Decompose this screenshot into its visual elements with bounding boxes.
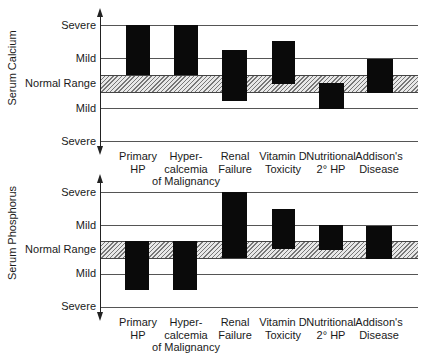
level-label-mild-low: Mild [0,267,96,279]
bar-primary-hp [126,25,150,75]
bar-vitamin-d-toxicity [272,209,295,249]
gridline-severe-low [100,307,418,308]
gridline-mild-low [100,108,418,109]
bar-hypercalcemia-malignancy [173,241,197,290]
gridline-severe-high [100,192,418,193]
category-label-addisons: Addison'sDisease [334,316,424,341]
level-label-mild-low: Mild [0,102,96,114]
bar-primary-hp [125,241,149,290]
y-axis [100,12,101,152]
category-label-addisons: Addison'sDisease [334,150,424,175]
level-label-severe-high: Severe [0,19,96,31]
bar-addisons-disease [366,226,392,259]
arrow-up-icon [97,174,103,183]
level-label-mild-high: Mild [0,52,96,64]
bar-addisons-disease [367,59,393,93]
y-axis [100,178,101,318]
bar-hypercalcemia-malignancy [174,25,198,75]
level-label-severe-low: Severe [0,300,96,312]
bar-nutritional-2hp [319,225,343,250]
level-label-mild-high: Mild [0,219,96,231]
gridline-severe-low [100,141,418,142]
level-label-normal: Normal Range [0,77,96,89]
level-label-severe-low: Severe [0,135,96,147]
bar-nutritional-2hp [319,83,344,109]
level-label-severe-high: Severe [0,186,96,198]
level-label-normal: Normal Range [0,243,96,255]
bar-renal-failure [222,192,247,258]
arrow-up-icon [97,8,103,17]
bar-vitamin-d-toxicity [272,41,295,84]
bar-renal-failure [222,50,247,101]
